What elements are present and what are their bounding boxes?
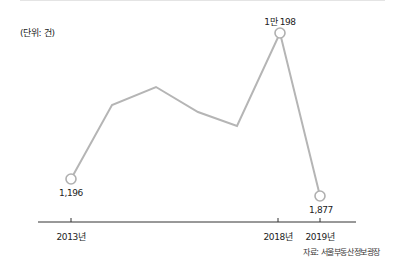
marker-2019 xyxy=(315,191,325,201)
series-line xyxy=(71,33,320,196)
source-note: 자료: 서울부동산정보광장 xyxy=(303,246,380,257)
x-tick-label-2018: 2018년 xyxy=(264,230,293,243)
x-tick-label-2013: 2013년 xyxy=(57,230,86,243)
data-label-2013: 1,196 xyxy=(59,188,83,198)
x-tick-label-2019: 2019년 xyxy=(306,230,335,243)
data-label-2018: 1만 198 xyxy=(264,15,295,28)
marker-2013 xyxy=(66,174,76,184)
marker-2018 xyxy=(275,28,285,38)
data-label-2019: 1,877 xyxy=(309,205,333,215)
